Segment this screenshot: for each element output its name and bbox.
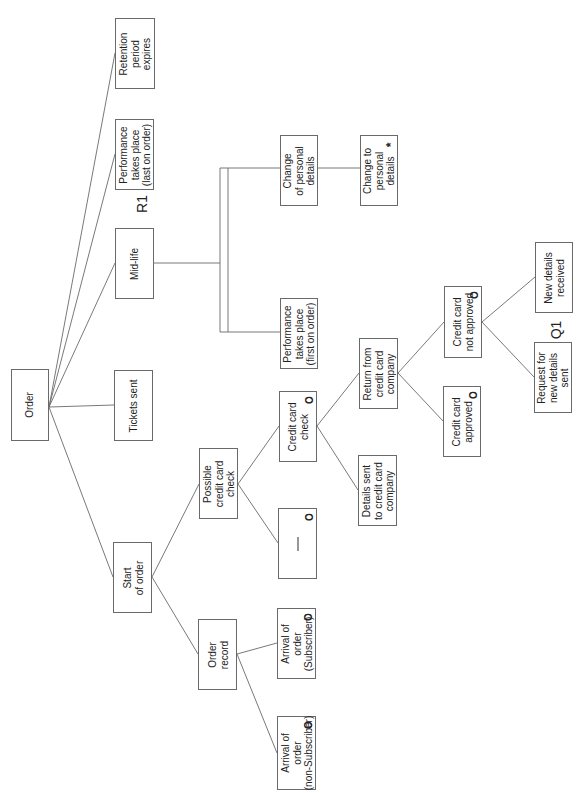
- node-credit-card-check: O Credit card check: [279, 391, 317, 462]
- node-label: Mid-life: [129, 247, 141, 279]
- node-arrival-subscriber: O Arrival of order (Subscriber): [277, 608, 316, 679]
- node-request-for-new-details-sent: Request for new details sent: [534, 342, 572, 413]
- node-label: Start of order: [121, 560, 144, 594]
- annotation-q1: Q1: [548, 321, 564, 340]
- node-credit-card-not-approved: O Credit card not approved: [444, 286, 482, 358]
- node-label: Credit card approved: [451, 397, 474, 446]
- node-possible-credit-card-check: Possible credit card check: [199, 448, 238, 519]
- node-label: New details received: [543, 252, 566, 304]
- annotation-r1: R1: [134, 195, 150, 213]
- null-dash-icon: [297, 537, 298, 551]
- node-label: Possible credit card check: [201, 460, 236, 507]
- node-details-sent-to-credit-card-company: Details sent to credit card company: [358, 455, 397, 526]
- node-performance-first-on-order: Performance takes place (first on order): [280, 298, 318, 369]
- node-label: Credit card check: [287, 402, 310, 451]
- node-credit-card-approved: O Credit card approved: [443, 386, 481, 457]
- node-label: Credit card not approved: [452, 293, 475, 351]
- node-label: Retention period expires: [118, 32, 153, 75]
- node-start-of-order: Start of order: [113, 542, 152, 613]
- node-tickets-sent: Tickets sent: [114, 370, 153, 441]
- node-label: Details sent to credit card company: [360, 462, 395, 520]
- node-label: Change to personal details: [362, 147, 397, 193]
- node-new-details-received: New details received: [535, 242, 573, 313]
- node-change-to-personal-details: * Change to personal details: [360, 135, 398, 206]
- node-label: Request for new details sent: [536, 352, 571, 404]
- node-label: Arrival of order (non-Subscriber): [279, 716, 314, 790]
- node-retention-period-expires: Retention period expires: [115, 18, 155, 89]
- node-label: Return from credit card company: [361, 347, 396, 400]
- node-arrival-non-subscriber: O Arrival of order (non-Subscriber): [277, 716, 316, 790]
- node-change-of-personal-details: Change of personal details: [280, 135, 318, 206]
- node-performance-last-on-order: Performance takes place (last on order): [115, 119, 154, 190]
- node-label: Arrival of order (Subscriber): [279, 616, 314, 670]
- node-label: Order: [24, 392, 36, 418]
- node-label: Performance takes place (last on order): [117, 123, 152, 185]
- node-label: Performance takes place (first on order): [282, 302, 317, 365]
- node-label: Order record: [206, 640, 229, 668]
- node-order: Order: [11, 369, 49, 441]
- node-return-from-credit-card-company: Return from credit card company: [359, 338, 398, 409]
- node-order-record: Order record: [198, 619, 237, 690]
- node-null-selection: O: [278, 508, 317, 579]
- selection-marker-icon: O: [305, 513, 315, 521]
- node-mid-life: Mid-life: [115, 228, 154, 299]
- node-label: Tickets sent: [128, 379, 140, 432]
- node-label: Change of personal details: [282, 146, 317, 195]
- iteration-marker-icon: *: [387, 143, 397, 148]
